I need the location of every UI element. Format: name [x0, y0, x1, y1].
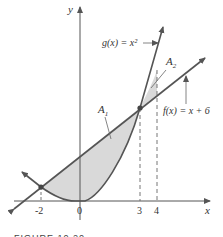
g-curve-label: g(x) = x² — [102, 37, 138, 49]
area-between-curves-figure: y x -2 0 3 4 g(x) = x² f(x) = x + 6 A1 A… — [0, 0, 223, 237]
tick-label-3: 3 — [137, 205, 142, 216]
tick-label-4: 4 — [154, 205, 159, 216]
f-curve-label: f(x) = x + 6 — [163, 105, 210, 117]
a2-label-leader — [151, 70, 166, 88]
intersection-point-right — [137, 105, 142, 110]
x-axis-label: x — [204, 204, 210, 216]
region-a2-label: A2 — [165, 55, 177, 70]
y-axis-label: y — [67, 3, 73, 15]
intersection-point-left — [38, 184, 43, 189]
figure-caption: FIGURE 10.20 — [14, 233, 85, 237]
region-a1-label: A1 — [97, 103, 108, 118]
tick-label-neg2: -2 — [35, 205, 43, 216]
tick-label-0: 0 — [77, 205, 82, 216]
parabola-g-left-arm — [22, 172, 41, 187]
